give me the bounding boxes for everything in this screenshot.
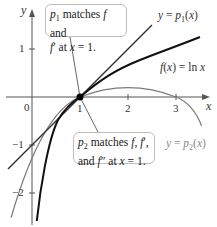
x-tick-label-2: 2 [125, 103, 131, 114]
y-axis-arrow-icon [29, 9, 35, 17]
top-callout: p1 matches f and f′ at x = 1. [45, 4, 127, 37]
y-axis-label: y [21, 4, 26, 16]
x-tick-label-3: 3 [173, 103, 179, 114]
top-callout-line1: p1 matches f and [50, 7, 122, 40]
tangency-point [77, 94, 84, 101]
y-tick-label-1: 1 [19, 43, 25, 54]
bottom-callout-line1: p2 matches f, f′, [78, 135, 150, 154]
f-curve-label: f(x) = ln x [160, 62, 205, 74]
y-tick-label-neg2: −2 [12, 187, 24, 198]
bottom-callout-line2: and f″ at x = 1. [78, 154, 150, 168]
bottom-callout-leader [80, 97, 98, 132]
y-tick-label-neg1: −1 [12, 139, 24, 150]
p2-curve-label: y = p2(x) [166, 138, 206, 152]
x-axis-label: x [206, 100, 211, 112]
p1-curve-label: y = p1(x) [158, 10, 198, 24]
x-tick-label-1: 1 [77, 103, 83, 114]
x-tick-label-0: 0 [24, 102, 30, 113]
top-callout-line2: f′ at x = 1. [50, 40, 122, 54]
bottom-callout: p2 matches f, f′, and f″ at x = 1. [73, 132, 155, 164]
